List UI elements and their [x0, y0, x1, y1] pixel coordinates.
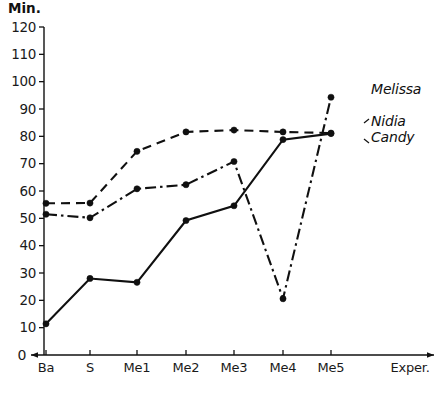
x-tick-label-me1: Me1 [124, 360, 151, 375]
data-point-marker [328, 94, 334, 100]
x-tick-label-me2: Me2 [173, 360, 200, 375]
y-tick-label: 30 [19, 265, 36, 281]
y-tick-label: 20 [19, 292, 36, 308]
origin-label: 0 [18, 347, 27, 363]
data-point-marker [43, 200, 49, 206]
y-tick-label: 100 [11, 73, 36, 89]
y-tick-label: 120 [11, 19, 36, 35]
x-axis-end-label: Exper. [390, 360, 429, 375]
series-candy [43, 131, 334, 327]
x-tick-label-me3: Me3 [221, 360, 248, 375]
data-point-marker [280, 129, 286, 135]
y-tick-label: 70 [19, 155, 36, 171]
legend-pointer-nidia [364, 119, 369, 123]
data-point-marker [87, 215, 93, 221]
x-axis-ticks [46, 350, 331, 355]
legend-pointer-candy [364, 139, 369, 143]
x-tick-label-me4: Me4 [270, 360, 297, 375]
data-point-marker [328, 131, 334, 137]
data-point-marker [87, 275, 93, 281]
data-point-marker [183, 217, 189, 223]
data-point-marker [134, 279, 140, 285]
data-point-marker [280, 137, 286, 143]
x-tick-label-ba: Ba [38, 360, 55, 375]
data-point-marker [134, 148, 140, 154]
series-layer [43, 94, 334, 327]
legend-label-melissa: Melissa [371, 81, 421, 97]
y-tick-label: 110 [11, 46, 36, 62]
series-line-candy [46, 134, 331, 324]
line-chart: Min. 102030405060708090100110120 0 BaSMe… [0, 0, 440, 393]
data-point-marker [87, 200, 93, 206]
chart-legend: MelissaNidiaCandy [364, 81, 421, 145]
x-tick-label-me5: Me5 [318, 360, 345, 375]
y-axis-title: Min. [8, 0, 41, 16]
chart-canvas: Min. 102030405060708090100110120 0 BaSMe… [0, 0, 440, 393]
x-tick-label-s: S [86, 360, 94, 375]
data-point-marker [231, 127, 237, 133]
y-tick-label: 10 [19, 319, 36, 335]
series-line-melissa [46, 97, 331, 298]
y-tick-label: 80 [19, 128, 36, 144]
data-point-marker [183, 182, 189, 188]
y-tick-label: 90 [19, 101, 36, 117]
x-axis-tick-labels: BaSMe1Me2Me3Me4Me5Exper. [38, 360, 430, 375]
legend-label-candy: Candy [371, 129, 415, 145]
data-point-marker [280, 296, 286, 302]
data-point-marker [134, 186, 140, 192]
series-melissa [43, 94, 334, 302]
data-point-marker [43, 211, 49, 217]
y-tick-label: 40 [19, 237, 36, 253]
y-axis-ticks: 102030405060708090100110120 [11, 19, 44, 336]
legend-label-nidia: Nidia [371, 113, 406, 129]
x-axis-left-arrow-icon [31, 352, 38, 358]
series-line-nidia [46, 130, 331, 203]
y-axis-title-label: Min. [8, 0, 41, 16]
y-tick-label: 60 [19, 183, 36, 199]
data-point-marker [231, 203, 237, 209]
data-point-marker [231, 158, 237, 164]
x-axis-right-arrow-icon [427, 352, 434, 358]
y-tick-label: 50 [19, 210, 36, 226]
data-point-marker [43, 321, 49, 327]
data-point-marker [183, 129, 189, 135]
